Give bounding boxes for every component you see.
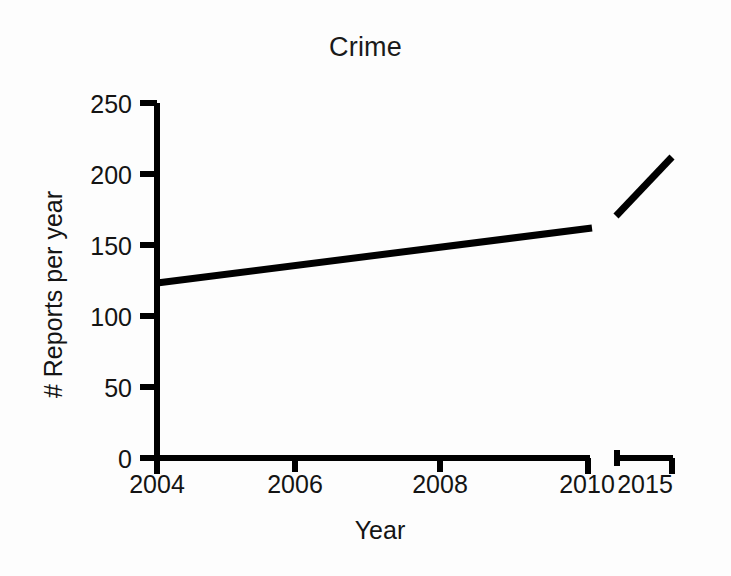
data-line-post-break bbox=[616, 157, 672, 216]
chart-figure: Crime # Reports per year Year 250 200 15… bbox=[0, 0, 731, 576]
data-line-main bbox=[157, 228, 592, 283]
plot-area bbox=[0, 0, 731, 576]
